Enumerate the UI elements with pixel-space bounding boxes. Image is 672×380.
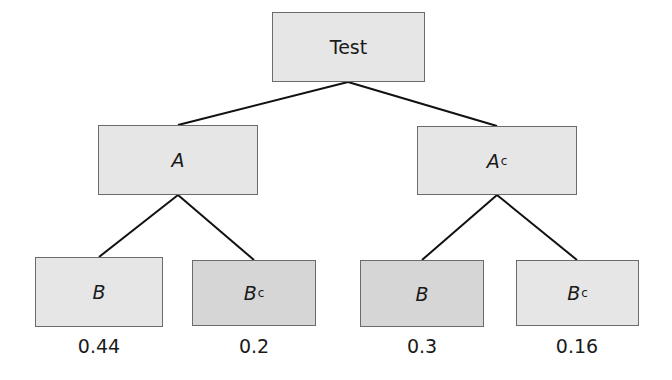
leaf-a-b: B xyxy=(35,257,163,327)
root-label: Test xyxy=(330,36,367,58)
prob-a-bc: 0.2 xyxy=(189,335,319,357)
node-a-label: A xyxy=(172,149,185,171)
edge-ac-b xyxy=(422,195,497,260)
leaf-ac-bc-superscript: c xyxy=(581,286,588,300)
edge-test-a xyxy=(178,82,348,125)
leaf-ac-b: B xyxy=(360,260,484,327)
leaf-ac-bc-label: B xyxy=(567,282,580,304)
prob-ac-bc: 0.16 xyxy=(512,335,642,357)
prob-a-b: 0.44 xyxy=(34,335,164,357)
leaf-a-b-label: B xyxy=(92,281,105,303)
node-ac-superscript: c xyxy=(501,154,508,168)
leaf-a-bc: Bc xyxy=(192,260,316,326)
prob-ac-b: 0.3 xyxy=(357,335,487,357)
node-a: A xyxy=(98,125,258,195)
node-ac-label: A xyxy=(487,150,500,172)
edge-test-ac xyxy=(348,82,497,126)
edge-ac-bc xyxy=(497,195,577,260)
leaf-ac-b-label: B xyxy=(415,283,428,305)
leaf-a-bc-superscript: c xyxy=(258,286,265,300)
root-node-test: Test xyxy=(272,12,425,82)
edge-a-b xyxy=(99,195,178,257)
leaf-ac-bc: Bc xyxy=(516,260,639,326)
node-a-complement: Ac xyxy=(417,126,577,195)
edge-a-bc xyxy=(178,195,254,260)
leaf-a-bc-label: B xyxy=(244,282,257,304)
